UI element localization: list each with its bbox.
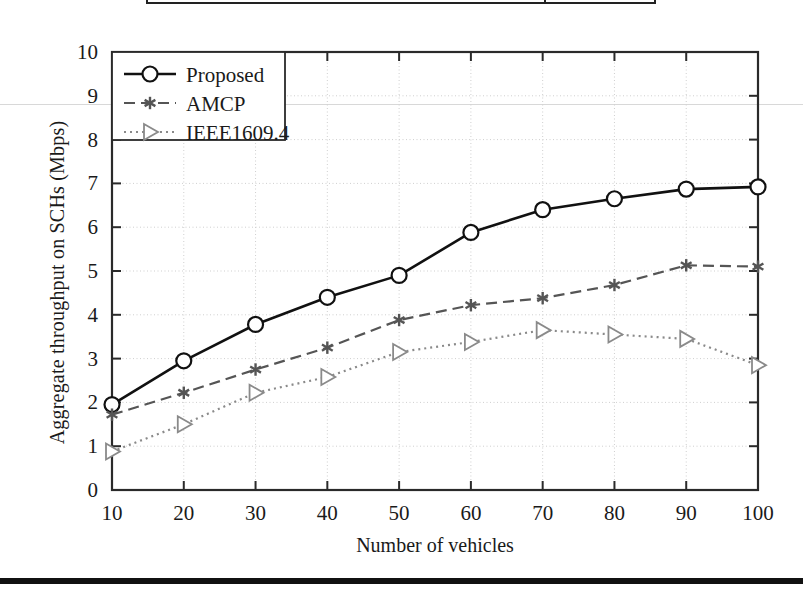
data-point-marker: [608, 327, 622, 343]
data-point-marker: [320, 290, 335, 305]
y-tick-label: 4: [88, 303, 99, 327]
y-tick-label: 1: [88, 434, 99, 458]
data-point-marker: [680, 331, 694, 347]
x-tick-label: 10: [102, 501, 123, 525]
data-point-marker: [176, 353, 191, 368]
data-point-marker: [178, 416, 192, 432]
y-tick-label: 6: [88, 215, 99, 239]
y-tick-label: 8: [88, 128, 99, 152]
y-tick-label: 9: [88, 84, 99, 108]
legend-label-2: IEEE1609.4: [186, 121, 290, 145]
line-chart-figure: 012345678910102030405060708090100Propose…: [0, 0, 803, 578]
y-tick-label: 10: [77, 40, 98, 64]
chart-plot-area: 012345678910102030405060708090100Propose…: [0, 0, 803, 578]
data-point-marker: [392, 268, 407, 283]
series-amcp: [107, 259, 764, 421]
data-point-marker: [537, 322, 551, 338]
legend-label-0: Proposed: [186, 63, 265, 87]
data-point-marker: [465, 334, 479, 350]
data-point-marker: [535, 202, 550, 217]
series-line: [112, 265, 758, 414]
y-tick-label: 0: [88, 478, 99, 502]
y-tick-label: 5: [88, 259, 99, 283]
y-axis-title: Aggregate throughput on SCHs (Mbps): [46, 83, 69, 483]
chart-legend: ProposedAMCPIEEE1609.4: [112, 52, 290, 145]
y-tick-label: 2: [88, 390, 99, 414]
x-tick-label: 70: [532, 501, 553, 525]
series-proposed: [105, 179, 766, 412]
data-point-marker: [248, 317, 263, 332]
x-tick-label: 90: [676, 501, 697, 525]
x-tick-label: 20: [173, 501, 194, 525]
x-tick-label: 100: [742, 501, 774, 525]
legend-label-1: AMCP: [186, 92, 246, 116]
circle-marker: [143, 67, 158, 82]
data-point-marker: [679, 182, 694, 197]
data-point-marker: [393, 344, 407, 360]
data-point-marker: [250, 385, 264, 401]
x-tick-label: 40: [317, 501, 338, 525]
data-point-marker: [463, 225, 478, 240]
x-tick-label: 30: [245, 501, 266, 525]
x-axis-title: Number of vehicles: [112, 534, 758, 557]
x-tick-label: 80: [604, 501, 625, 525]
y-tick-label: 7: [88, 171, 99, 195]
page-bottom-rule: [0, 578, 803, 584]
series-line: [112, 187, 758, 405]
x-tick-label: 60: [460, 501, 481, 525]
data-point-marker: [321, 369, 335, 385]
series-ieee1609-4: [106, 322, 766, 459]
data-point-marker: [607, 191, 622, 206]
data-point-marker: [751, 179, 766, 194]
y-tick-label: 3: [88, 347, 99, 371]
x-tick-label: 50: [389, 501, 410, 525]
